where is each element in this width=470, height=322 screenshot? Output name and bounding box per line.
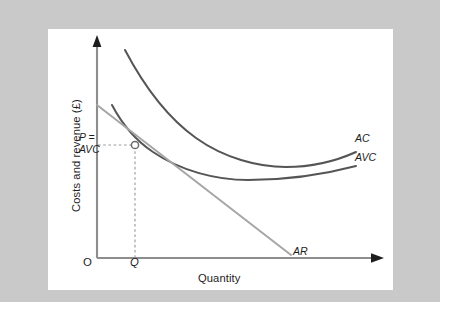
tangency-point-marker: [131, 141, 138, 148]
avc-curve: [112, 105, 356, 180]
ac-curve-label: AC: [355, 133, 370, 145]
ar-line-label: AR: [293, 246, 308, 258]
quantity-tick-label: Q: [130, 256, 139, 269]
avc-curve-label: AVC: [355, 152, 376, 164]
x-axis-arrow-icon: [371, 253, 384, 262]
price-equals-avc-label: P = AVC: [79, 132, 100, 155]
ac-curve: [125, 50, 356, 167]
y-axis-arrow-icon: [93, 35, 102, 47]
x-axis-title: Quantity: [198, 272, 240, 285]
origin-label: O: [83, 256, 92, 269]
y-axis-title: Costs and revenue (£): [70, 99, 83, 212]
figure-root: Costs and revenue (£) Quantity O Q P = A…: [0, 0, 470, 322]
